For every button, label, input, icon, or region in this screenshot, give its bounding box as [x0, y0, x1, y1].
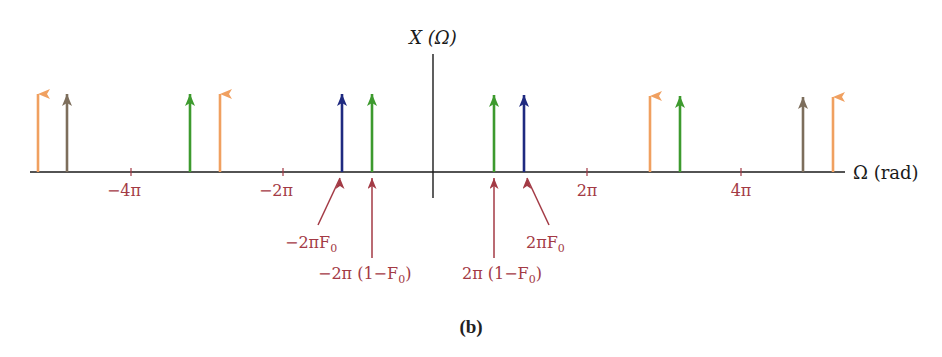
tick-label-4pi: 4π [731, 181, 752, 200]
x-axis-label: Ω (rad) [853, 162, 919, 183]
tick-label-2pi: 2π [577, 181, 598, 200]
annotation-minus-2pi-F0: −2πF0 [285, 233, 337, 255]
annotation-2pi-1-minus-F0: 2π (1−F0) [462, 264, 542, 286]
figure-caption: (b) [0, 316, 942, 338]
impulses [38, 94, 833, 172]
annotation-minus-2pi-1-minus-F0: −2π (1−F0) [318, 264, 411, 286]
y-axis-label: X (Ω) [407, 27, 457, 48]
tick-label-m4pi: −4π [107, 181, 141, 200]
spectrum-diagram: X (Ω) Ω (rad) −4π −2π 2π 4π −2πF0 −2π (1… [0, 0, 942, 357]
annotation-2pi-F0: 2πF0 [526, 233, 565, 255]
tick-label-m2pi: −2π [259, 181, 293, 200]
